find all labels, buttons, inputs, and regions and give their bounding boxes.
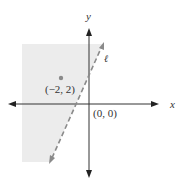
x-axis-left-arrow-icon xyxy=(8,101,16,107)
point-label: (−2, 2) xyxy=(45,83,75,96)
y-axis-down-arrow-icon xyxy=(86,170,92,178)
diagram-svg: (−2, 2) (0, 0) y x ℓ xyxy=(0,0,183,189)
y-axis-up-arrow-icon xyxy=(86,28,92,36)
shaded-region xyxy=(22,44,103,162)
line-label: ℓ xyxy=(104,53,108,64)
coordinate-plane-diagram: (−2, 2) (0, 0) y x ℓ xyxy=(0,0,183,189)
y-axis-label: y xyxy=(85,10,91,22)
origin-label: (0, 0) xyxy=(93,107,117,120)
boundary-line-lower-arrow-icon xyxy=(49,155,55,164)
x-axis-right-arrow-icon xyxy=(151,101,159,107)
x-axis-label: x xyxy=(169,98,175,110)
point-marker xyxy=(59,76,63,80)
